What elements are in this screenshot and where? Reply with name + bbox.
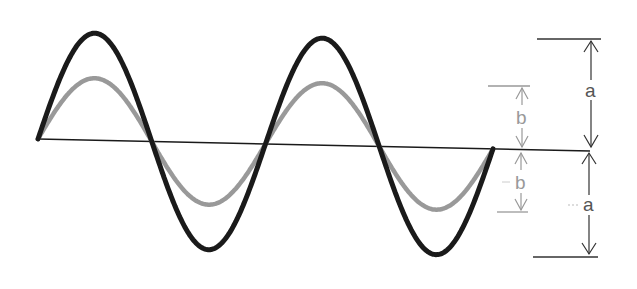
wave-diagram: a a b b	[0, 0, 637, 289]
large-amplitude-wave	[38, 33, 493, 255]
amplitude-b-upper-marker: b	[488, 86, 530, 147]
label-b-lower: b	[515, 172, 526, 193]
label-a-lower: a	[583, 194, 594, 215]
label-a-upper: a	[585, 80, 596, 101]
label-b-upper: b	[516, 107, 527, 128]
amplitude-a-lower-marker: a	[533, 153, 598, 257]
amplitude-a-upper-marker: a	[537, 39, 601, 147]
amplitude-b-lower-marker: b	[497, 153, 528, 212]
baseline-axis	[38, 139, 590, 151]
